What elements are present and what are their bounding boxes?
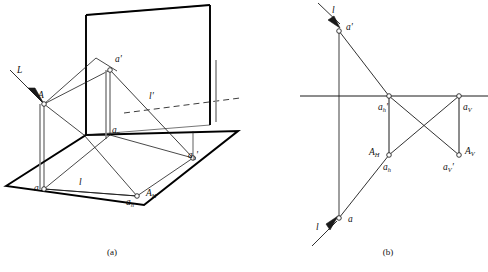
label-a: a bbox=[34, 183, 39, 193]
label-b-a: a bbox=[348, 214, 353, 224]
node-b-a-h bbox=[387, 153, 392, 158]
node-b-a-h-prime bbox=[387, 94, 392, 99]
label-b-l-bottom: l bbox=[316, 222, 319, 232]
label-b-l-top: l bbox=[332, 5, 335, 15]
label-b-A-H: AH bbox=[368, 147, 380, 158]
diagonal-a-x-to-a-h bbox=[84, 135, 137, 196]
node-b-a-V bbox=[457, 94, 462, 99]
node-b-a bbox=[337, 216, 342, 221]
node-A bbox=[42, 102, 47, 107]
label-l: l bbox=[79, 177, 82, 187]
panel-b-group: l a' ah' aV AH ah aV' AV bbox=[300, 3, 488, 257]
hidden-line-l-prime-dashed bbox=[124, 98, 240, 113]
label-A: A bbox=[37, 90, 44, 100]
figure-root: L A a' l' ax ah' a l ah bbox=[0, 0, 488, 272]
label-l-prime: l' bbox=[149, 91, 155, 101]
label-a-prime: a' bbox=[115, 54, 123, 64]
arrow-l-top bbox=[318, 3, 340, 28]
label-b-a-V: aV bbox=[463, 102, 473, 113]
node-a bbox=[42, 187, 47, 192]
line-l-prime bbox=[110, 70, 193, 158]
label-b-a-h-prime: ah' bbox=[378, 102, 389, 113]
label-a-h: ah bbox=[126, 197, 134, 208]
label-b-a-V-prime: aV' bbox=[443, 162, 455, 173]
node-b-a-prime bbox=[337, 29, 342, 34]
vertical-plane-top-edge bbox=[86, 5, 210, 15]
node-b-a-V-prime bbox=[457, 153, 462, 158]
node-a-h bbox=[135, 194, 140, 199]
vertical-plane-v bbox=[86, 5, 210, 135]
arrow-l-bottom-head bbox=[326, 216, 338, 230]
caption-panel-a: (a) bbox=[107, 247, 117, 257]
label-L: L bbox=[16, 65, 22, 75]
line-l-prime-projection bbox=[339, 31, 389, 96]
line-l-horizontal-projection bbox=[339, 155, 389, 218]
edge-a-h-prime-to-a-x bbox=[110, 135, 193, 158]
label-b-A-V: AV bbox=[464, 146, 476, 157]
node-a-prime bbox=[108, 68, 113, 73]
label-b-a-h: ah bbox=[383, 162, 391, 173]
edge-A-to-a-x bbox=[44, 104, 84, 135]
edge-a-to-a-x-ground bbox=[44, 135, 110, 189]
label-a-x: ax bbox=[112, 125, 120, 136]
label-A-H: AH bbox=[145, 188, 157, 199]
caption-panel-b: (b) bbox=[383, 247, 394, 257]
technical-drawing-svg: L A a' l' ax ah' a l ah bbox=[0, 0, 488, 272]
panel-a-group: L A a' l' ax ah' a l ah bbox=[6, 5, 240, 257]
vertical-plane-outline bbox=[86, 5, 210, 135]
line-L-through-a-prime bbox=[96, 58, 117, 71]
label-a-h-prime: ah' bbox=[188, 150, 199, 161]
label-b-a-prime: a' bbox=[346, 22, 354, 32]
